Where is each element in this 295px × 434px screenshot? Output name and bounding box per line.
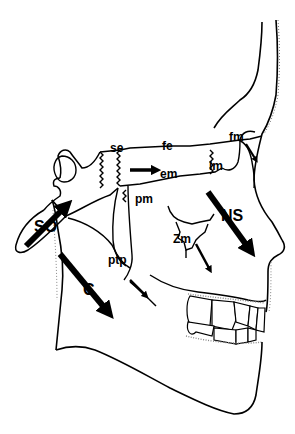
teeth <box>187 296 265 344</box>
ear-outline <box>54 156 76 182</box>
label-fe: fe <box>162 140 173 152</box>
skull-diagram <box>0 0 295 434</box>
label-lm: lm <box>209 160 223 172</box>
label-pm: pm <box>135 193 153 205</box>
zm-arrow <box>196 244 210 270</box>
label-ns: NS <box>221 208 243 224</box>
label-se: se <box>110 142 123 154</box>
ptp-arrow <box>130 280 146 296</box>
label-zm: Zm <box>173 233 191 245</box>
face-profile <box>266 240 284 312</box>
label-ptp: ptp <box>108 254 127 266</box>
label-fm: fm <box>229 131 244 143</box>
label-em: em <box>160 168 177 180</box>
condyle-process <box>16 150 130 268</box>
label-c: C <box>83 282 95 298</box>
label-so: SO <box>34 219 57 235</box>
